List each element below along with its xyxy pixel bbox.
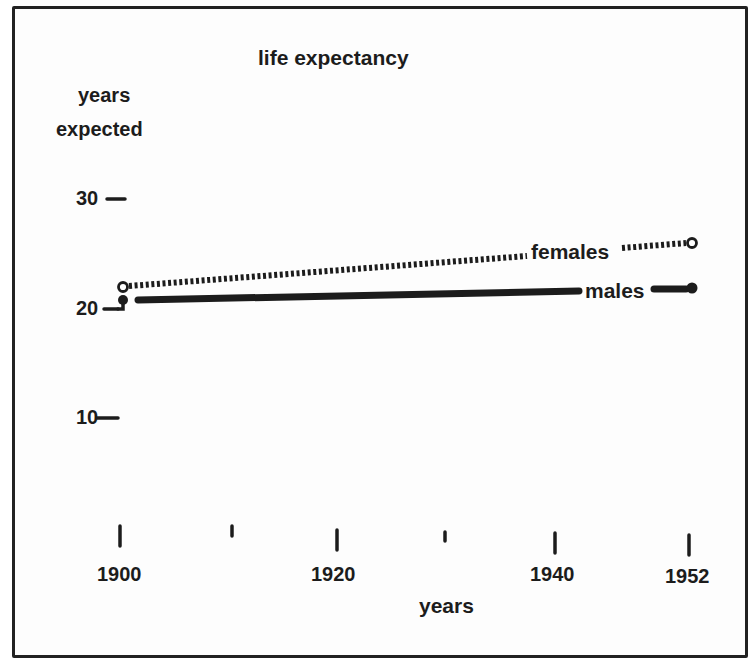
males-start-marker — [118, 295, 128, 305]
plot-area — [0, 0, 754, 664]
females-start-marker — [119, 283, 128, 292]
females-end-marker — [688, 239, 697, 248]
series-males-line — [138, 289, 686, 300]
x-axis-ticks — [120, 526, 689, 555]
series-females-line — [129, 243, 686, 286]
males-end-marker — [687, 283, 698, 294]
